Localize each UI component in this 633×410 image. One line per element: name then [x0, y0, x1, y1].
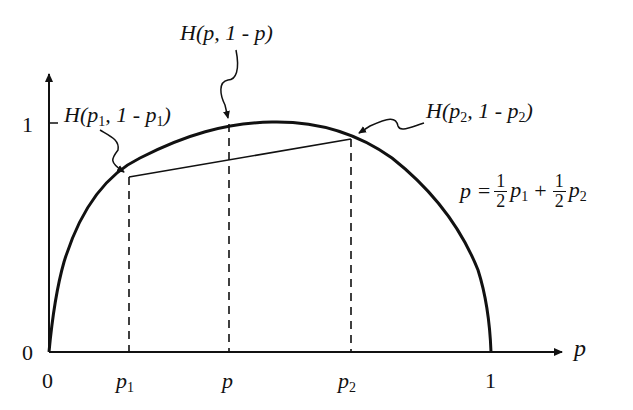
frac2-num: 1 [553, 172, 566, 192]
x-tick-p1-sub: 1 [127, 380, 134, 395]
term1-sub: 1 [521, 189, 528, 204]
x-tick-p2-sub: 2 [349, 380, 356, 395]
h-open: (p [442, 98, 460, 123]
h-symbol: H [426, 98, 442, 123]
annotation-h-p: H(p, 1 - p) [180, 22, 273, 44]
annotation-h-p2: H(p2, 1 - p2) [426, 100, 533, 125]
x-tick-p1-var: p [116, 368, 127, 393]
x-origin-label: 0 [42, 370, 53, 392]
chord-line [129, 139, 351, 177]
h-open: (p [80, 102, 98, 127]
pointer-h-p [221, 50, 238, 118]
h-symbol: H [64, 102, 80, 127]
x-tick-p1: p1 [116, 370, 134, 395]
x-axis-label: p [574, 336, 586, 360]
formula-term-2: p2 [569, 179, 587, 204]
entropy-curve [49, 122, 491, 352]
h-mid: , 1 - p [467, 98, 518, 123]
y-origin-label: 0 [22, 342, 33, 364]
h-mid: , 1 - p [105, 102, 156, 127]
formula-plus: + [534, 180, 546, 202]
pointer-h-p2 [359, 119, 424, 133]
frac1-den: 2 [494, 192, 507, 211]
h-sub2: 1 [157, 114, 164, 129]
term2-var: p [569, 177, 580, 202]
formula-lhs: p = [460, 180, 491, 202]
formula-fraction-2: 12 [553, 172, 566, 211]
x-tick-p2-var: p [338, 368, 349, 393]
term2-sub: 2 [580, 189, 587, 204]
frac2-den: 2 [553, 192, 566, 211]
pointer-h-p1 [100, 130, 124, 172]
h-symbol: H [180, 20, 196, 45]
h-close: ) [164, 102, 171, 127]
formula-term-1: p1 [510, 179, 528, 204]
h-sub2: 2 [519, 110, 526, 125]
term1-var: p [510, 177, 521, 202]
x-end-label: 1 [485, 370, 496, 392]
x-tick-p: p [222, 370, 233, 392]
y-tick-label-1: 1 [22, 114, 33, 136]
annotation-h-p1: H(p1, 1 - p1) [64, 104, 171, 129]
x-tick-p2: p2 [338, 370, 356, 395]
h-close: ) [526, 98, 533, 123]
frac1-num: 1 [494, 172, 507, 192]
formula-fraction-1: 12 [494, 172, 507, 211]
formula-p-average: p = 12 p1 + 12 p2 [460, 172, 587, 211]
h-args: (p, 1 - p) [196, 20, 273, 45]
